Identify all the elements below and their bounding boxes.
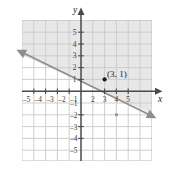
x-tick-label: –3 bbox=[45, 95, 54, 104]
x-tick-label: –2 bbox=[57, 95, 66, 104]
y-tick-label: –2 bbox=[69, 111, 78, 120]
y-tick-label: 5 bbox=[73, 28, 77, 37]
y-axis-label: y bbox=[72, 5, 78, 15]
y-tick-label: –3 bbox=[69, 123, 78, 132]
y-tick-label: 1 bbox=[73, 75, 77, 84]
point-annotation-label: (3, 1) bbox=[107, 69, 127, 79]
x-tick-label: 4 bbox=[115, 95, 119, 104]
y-tick-labels-positive: 5 4 3 2 1 bbox=[73, 28, 77, 84]
y-axis-arrowhead bbox=[78, 8, 85, 16]
x-tick-label: –5 bbox=[22, 95, 31, 104]
x-tick-label: 3 bbox=[103, 95, 107, 104]
y-tick-labels-negative: –1 –2 –3 –4 –5 bbox=[69, 99, 78, 155]
y-tick-label: 4 bbox=[73, 40, 77, 49]
x-tick-label: 5 bbox=[126, 95, 130, 104]
y-tick-label: 3 bbox=[73, 51, 77, 60]
y-tick-label: –4 bbox=[69, 134, 78, 143]
graph-canvas: –5 –4 –3 –2 –1 2 3 4 5 5 4 3 2 1 –1 –2 –… bbox=[0, 0, 169, 173]
y-tick-label: 2 bbox=[73, 63, 77, 72]
y-tick-label: –1 bbox=[69, 99, 78, 108]
y-tick-label: –5 bbox=[69, 146, 78, 155]
x-tick-label: 2 bbox=[91, 95, 95, 104]
x-axis-label: x bbox=[157, 94, 163, 104]
x-tick-label: –4 bbox=[34, 95, 43, 104]
coordinate-plane-graph: –5 –4 –3 –2 –1 2 3 4 5 5 4 3 2 1 –1 –2 –… bbox=[0, 0, 169, 173]
data-point-4-neg2 bbox=[115, 113, 118, 116]
